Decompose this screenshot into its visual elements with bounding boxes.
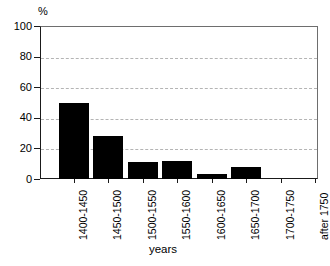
y-axis-unit-label: % [38,6,48,17]
x-tick-mark-1400-1450 [74,179,75,183]
y-tick-mark-100 [34,26,40,27]
x-axis-title: years [0,243,326,255]
x-tick-mark-1600-1650 [212,179,213,183]
y-tick-label-0: 0 [26,174,32,185]
y-tick-label-60: 60 [20,82,32,93]
x-axis-label-after-1750: after 1750 [319,193,330,240]
bars-layer [41,26,317,179]
x-tick-mark-1700-1750 [281,179,282,183]
y-tick-label-100: 100 [14,21,32,32]
y-tick-mark-40 [34,118,40,119]
bar-1650-1700 [231,167,261,179]
x-axis-label-1500-1550: 1500-1550 [147,190,158,240]
x-tick-mark-1500-1550 [143,179,144,183]
y-tick-label-20: 20 [20,143,32,154]
bar-1550-1600 [162,161,192,179]
x-axis-label-1650-1700: 1650-1700 [250,190,261,240]
y-tick-mark-60 [34,87,40,88]
x-tick-mark-after-1750 [315,179,316,183]
x-tick-mark-1450-1500 [108,179,109,183]
bar-1500-1550 [128,162,158,179]
x-tick-mark-1650-1700 [246,179,247,183]
x-axis-label-1600-1650: 1600-1650 [216,190,227,240]
x-axis-label-1700-1750: 1700-1750 [285,190,296,240]
x-tick-mark-1550-1600 [177,179,178,183]
x-axis-label-1400-1450: 1400-1450 [78,190,89,240]
bar-1450-1500 [93,136,123,179]
y-tick-label-80: 80 [20,51,32,62]
y-tick-mark-0 [34,179,40,180]
x-axis-label-1550-1600: 1550-1600 [181,190,192,240]
y-tick-mark-80 [34,57,40,58]
bar-1400-1450 [59,103,89,180]
y-tick-label-40: 40 [20,112,32,123]
y-tick-mark-20 [34,148,40,149]
x-axis-label-1450-1500: 1450-1500 [112,190,123,240]
